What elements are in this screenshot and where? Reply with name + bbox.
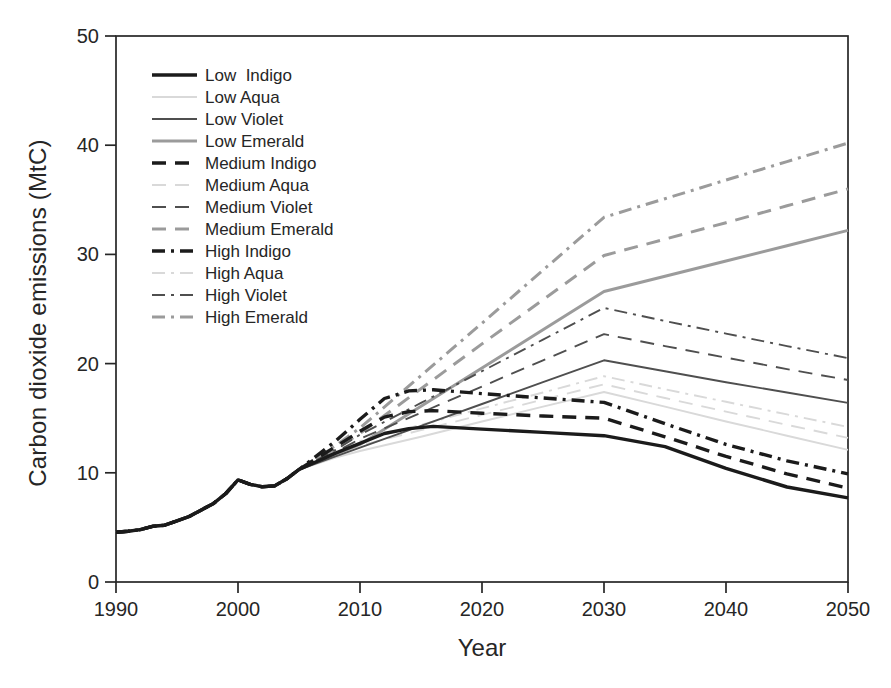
legend-label-medium-emerald: Medium Emerald xyxy=(205,220,334,239)
legend-label-high-indigo: High Indigo xyxy=(205,242,291,261)
y-tick-label: 50 xyxy=(77,25,99,47)
legend-label-high-aqua: High Aqua xyxy=(205,264,284,283)
legend-label-high-violet: High Violet xyxy=(205,286,287,305)
x-tick-label: 2000 xyxy=(216,598,261,620)
x-tick-label: 2010 xyxy=(338,598,383,620)
legend-label-medium-indigo: Medium Indigo xyxy=(205,154,317,173)
y-tick-label: 30 xyxy=(77,243,99,265)
series-line-high-aqua xyxy=(116,376,848,532)
emissions-chart: 010203040501990200020102020203020402050L… xyxy=(0,0,891,688)
legend-label-low-violet: Low Violet xyxy=(205,110,283,129)
x-tick-label: 2030 xyxy=(582,598,627,620)
legend-label-high-emerald: High Emerald xyxy=(205,308,308,327)
legend-label-medium-violet: Medium Violet xyxy=(205,198,313,217)
legend-label-medium-aqua: Medium Aqua xyxy=(205,176,309,195)
figure: Carbon dioxide emissions (MtC) 010203040… xyxy=(0,0,891,688)
x-tick-label: 2040 xyxy=(704,598,749,620)
x-tick-label: 2020 xyxy=(460,598,505,620)
series-line-medium-aqua xyxy=(116,384,848,532)
legend-label-low-indigo: Low Indigo xyxy=(205,66,292,85)
y-tick-label: 40 xyxy=(77,134,99,156)
y-axis-title: Carbon dioxide emissions (MtC) xyxy=(24,93,52,533)
x-tick-label: 2050 xyxy=(826,598,871,620)
series-line-high-violet xyxy=(116,308,848,532)
y-tick-label: 10 xyxy=(77,462,99,484)
series-line-low-indigo xyxy=(116,426,848,532)
legend-label-low-emerald: Low Emerald xyxy=(205,132,304,151)
y-tick-label: 20 xyxy=(77,353,99,375)
legend-label-low-aqua: Low Aqua xyxy=(205,88,280,107)
y-tick-label: 0 xyxy=(88,571,99,593)
x-tick-label: 1990 xyxy=(94,598,139,620)
x-axis-title: Year xyxy=(116,634,848,662)
series-line-high-indigo xyxy=(116,390,848,533)
series-line-medium-violet xyxy=(116,334,848,532)
